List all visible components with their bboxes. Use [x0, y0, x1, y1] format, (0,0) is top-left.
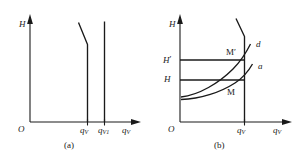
- tick-label-qv-a-sub: V: [85, 129, 89, 135]
- panel-b: H O H′ H d a M′ M qV qV (b): [153, 0, 306, 158]
- point-label-m-prime: M′: [226, 48, 236, 57]
- y-axis-arrowhead-a: [27, 14, 33, 24]
- tick-label-qv-b-sub: V: [242, 129, 246, 135]
- panel-a: H O qV qV1 qV (a): [0, 0, 153, 158]
- curve-d-b: [181, 44, 251, 97]
- tick-label-qv1-a: qV1: [98, 126, 109, 135]
- origin-label-a: O: [18, 125, 25, 134]
- x-axis-label-a-sub: V: [127, 129, 131, 135]
- x-axis-arrowhead-a: [131, 119, 141, 125]
- level-label-h-prime-b: H′: [163, 55, 171, 65]
- tick-label-qv-a: qV: [80, 126, 88, 135]
- origin-label-b: O: [168, 125, 175, 134]
- level-label-h-b: H: [164, 75, 171, 84]
- curve-pump-b: [236, 19, 245, 123]
- x-axis-label-b-sub: V: [278, 129, 282, 135]
- x-axis-label-a: qV: [122, 126, 130, 135]
- figure-root: H O qV qV1 qV (a): [0, 0, 306, 158]
- tick-label-qv1-a-sub: V1: [103, 129, 110, 135]
- caption-b: (b): [214, 140, 225, 150]
- y-axis-label-b: H: [169, 20, 176, 29]
- y-axis-label-a: H: [19, 20, 26, 29]
- curve-label-a: a: [258, 62, 263, 71]
- curve-throttled-a: [79, 23, 88, 123]
- curve-label-d: d: [256, 40, 261, 49]
- x-axis-arrowhead-b: [282, 119, 292, 125]
- tick-label-qv-b: qV: [237, 126, 245, 135]
- y-axis-arrowhead-b: [177, 14, 183, 24]
- point-label-m: M: [227, 88, 235, 97]
- level-label-h-prime-mark: ′: [170, 54, 172, 64]
- x-axis-label-b: qV: [273, 126, 281, 135]
- caption-a: (a): [64, 140, 74, 150]
